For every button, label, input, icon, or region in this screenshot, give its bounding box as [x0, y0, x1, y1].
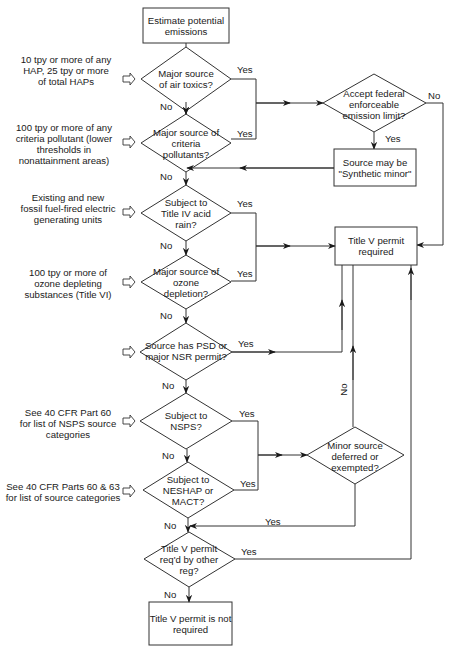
decision-label: Source has PSD or major NSR permit? — [140, 331, 232, 371]
input-arrow-icon — [123, 73, 135, 85]
yes-label: Yes — [241, 546, 257, 557]
minor-source-label: Minor source deferred or exempted? — [318, 437, 392, 475]
yes-label: Yes — [240, 478, 256, 489]
yes-label: Yes — [237, 64, 253, 75]
no-label: No — [160, 101, 172, 112]
note-title-iv: Existing and new fossil fuel-fired elect… — [20, 192, 116, 225]
decision-label: Subject to NESHAP or MACT? — [160, 470, 216, 510]
input-arrow-icon — [123, 206, 135, 218]
yes-label: Yes — [237, 198, 253, 209]
no-label: No — [160, 171, 172, 182]
synthetic-minor-label: Source may be "Synthetic minor" — [334, 149, 416, 186]
no-label: No — [160, 310, 172, 321]
input-arrow-icon — [123, 276, 135, 288]
input-arrow-icon — [123, 346, 135, 358]
accept-limit-label: Accept federal enforceable emission limi… — [338, 84, 410, 124]
accept-yes-label: Yes — [385, 133, 401, 144]
end-label: Title V permit is not required — [149, 602, 232, 645]
no-label: No — [164, 520, 176, 531]
yes-label: Yes — [237, 268, 253, 279]
input-arrow-icon — [123, 136, 135, 148]
title-v-required-label: Title V permit required — [335, 227, 417, 265]
decision-label: Subject to Title IV acid rain? — [158, 193, 214, 233]
no-label: No — [162, 380, 174, 391]
start-label: Estimate potential emissions — [143, 8, 229, 43]
note-neshap: See 40 CFR Parts 60 & 63 for list of sou… — [4, 481, 122, 503]
decision-label: Major source of ozone depletion? — [152, 262, 220, 302]
decision-label: Subject to NSPS? — [160, 405, 212, 437]
note-nsps: See 40 CFR Part 60 for list of NSPS sour… — [18, 407, 118, 440]
yes-label: Yes — [239, 408, 255, 419]
decision-label: Major source of criteria pollutants? — [152, 123, 220, 163]
no-label: No — [162, 450, 174, 461]
minor-no-label: No — [338, 383, 349, 395]
no-label: No — [160, 240, 172, 251]
input-arrow-icon — [123, 485, 135, 497]
minor-yes-label: Yes — [265, 516, 281, 527]
yes-label: Yes — [238, 338, 254, 349]
accept-no-label: No — [428, 90, 440, 101]
note-criteria: 100 tpy or more of any criteria pollutan… — [8, 122, 120, 166]
no-label: No — [164, 589, 176, 600]
decision-label: Title V permit req'd by other reg? — [156, 539, 222, 579]
yes-label: Yes — [237, 128, 253, 139]
input-arrow-icon — [123, 415, 135, 427]
decision-label: Major source of air toxics? — [156, 58, 216, 100]
note-air-toxics: 10 tpy or more of any HAP, 25 tpy or mor… — [18, 54, 114, 87]
note-ozone: 100 tpy or more of ozone depleting subst… — [18, 267, 118, 300]
